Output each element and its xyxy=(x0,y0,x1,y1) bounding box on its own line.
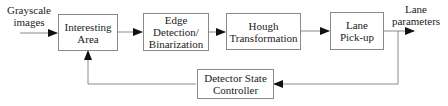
node-lane-pickup: Lane Pick-up xyxy=(330,12,384,50)
output-label-line1: Lane xyxy=(384,3,448,15)
node-label: Detector State xyxy=(204,72,267,84)
node-label: Hough xyxy=(229,20,297,32)
node-label: Transformation xyxy=(229,32,297,44)
output-label-line2: parameters xyxy=(384,15,448,27)
arrow-controller-to-interesting xyxy=(88,51,196,84)
node-interesting-area: Interesting Area xyxy=(58,14,118,51)
node-label: Edge xyxy=(149,14,203,26)
node-label: Controller xyxy=(204,84,267,96)
node-label: Lane xyxy=(340,19,374,31)
node-label: Pick-up xyxy=(340,31,374,43)
output-label: Lane parameters xyxy=(384,3,448,27)
node-label: Area xyxy=(64,33,111,45)
input-label-line1: Grayscale xyxy=(2,4,56,16)
node-label: Interesting xyxy=(64,21,111,33)
node-label: Binarization xyxy=(149,38,203,50)
node-label: Detection/ xyxy=(149,26,203,38)
node-hough-transformation: Hough Transformation xyxy=(226,13,301,50)
node-detector-state-controller: Detector State Controller xyxy=(197,69,274,99)
node-edge-detection: Edge Detection/ Binarization xyxy=(143,13,209,51)
input-label: Grayscale images xyxy=(2,4,56,28)
input-label-line2: images xyxy=(2,16,56,28)
